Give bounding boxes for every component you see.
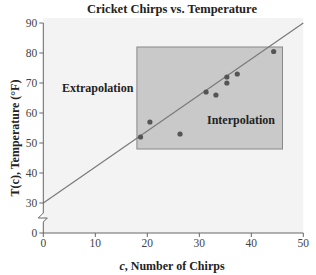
x-tick-label: 50 xyxy=(298,237,310,249)
x-tick-label: 30 xyxy=(194,237,206,249)
y-tick-label: 90 xyxy=(26,17,38,29)
y-tick-label: 30 xyxy=(26,197,38,209)
data-point xyxy=(213,92,218,97)
x-axis-label: c, Number of Chirps xyxy=(119,259,224,273)
data-point xyxy=(224,74,229,79)
x-tick-label: 40 xyxy=(246,237,258,249)
interpolation-region xyxy=(137,47,283,149)
x-tick-label: 10 xyxy=(90,237,102,249)
y-axis-label: T(c), Temperature (°F) xyxy=(8,80,22,197)
x-tick-label: 20 xyxy=(142,237,154,249)
interpolation-label: Interpolation xyxy=(207,113,275,127)
data-point xyxy=(138,134,143,139)
data-point xyxy=(147,119,152,124)
y-tick-label: 40 xyxy=(26,167,38,179)
y-tick-label: 50 xyxy=(26,137,38,149)
y-tick-label: 60 xyxy=(26,107,38,119)
extrapolation-label: Extrapolation xyxy=(62,81,134,95)
y-tick-label: 70 xyxy=(26,77,38,89)
x-tick-label: 0 xyxy=(40,237,46,249)
chart: Cricket Chirps vs. Temperature 030405060… xyxy=(0,0,316,275)
y-tick-label: 0 xyxy=(32,227,38,239)
data-point xyxy=(271,49,276,54)
data-point xyxy=(203,89,208,94)
y-tick-label: 80 xyxy=(26,47,38,59)
chart-title: Cricket Chirps vs. Temperature xyxy=(87,2,257,16)
data-point xyxy=(224,80,229,85)
data-point xyxy=(177,131,182,136)
data-point xyxy=(235,71,240,76)
